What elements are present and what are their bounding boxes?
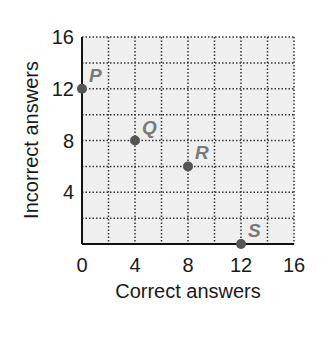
x-tick-label: 16 [283,254,305,276]
x-tick-label: 4 [129,254,140,276]
y-axis-label: Incorrect answers [20,61,42,219]
data-point-r [183,161,193,171]
x-tick-label: 8 [182,254,193,276]
point-label-q: Q [142,117,157,138]
data-point-s [236,239,246,249]
y-tick-label: 16 [52,26,74,48]
data-point-p [77,84,87,94]
point-label-p: P [89,65,102,86]
y-tick-label: 4 [63,181,74,203]
y-tick-label: 8 [63,130,74,152]
x-tick-label: 12 [230,254,252,276]
y-tick-label: 12 [52,78,74,100]
x-axis-label: Correct answers [115,280,261,302]
point-label-r: R [195,142,209,163]
scatter-chart: 0481216 481216 PQRS Correct answers Inco… [0,0,326,339]
y-tick-labels: 481216 [52,26,74,203]
x-tick-label: 0 [76,254,87,276]
x-tick-labels: 0481216 [76,254,305,276]
data-point-q [130,136,140,146]
point-label-s: S [248,220,261,241]
